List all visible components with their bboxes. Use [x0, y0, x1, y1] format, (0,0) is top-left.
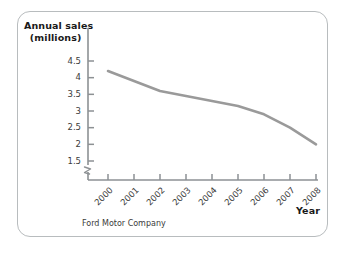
- data-series-line: [108, 71, 316, 144]
- plot-area: [0, 0, 347, 259]
- source-caption: Ford Motor Company: [82, 219, 166, 228]
- y-axis-break-icon: [85, 167, 91, 174]
